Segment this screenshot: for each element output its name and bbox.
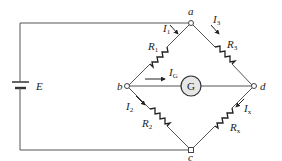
current-i1-label: I1 [162, 22, 171, 36]
current-i2-label: I2 [125, 100, 134, 114]
r1-label: R1 [147, 40, 159, 54]
wheatstone-bridge-diagram: E G a b c d R1 R3 R2 Rx [0, 0, 282, 161]
current-ig-label: IG [168, 66, 178, 80]
node-a-label: a [188, 5, 194, 17]
node-c-label: c [188, 151, 193, 161]
battery-icon [12, 80, 29, 92]
current-ix-label: Ix [243, 102, 252, 116]
source-label: E [35, 80, 43, 92]
current-i3-label: I3 [212, 13, 221, 27]
resistor-r1 [129, 25, 189, 85]
node-d-label: d [260, 80, 266, 92]
resistor-r3 [193, 25, 252, 85]
resistor-rx [193, 88, 252, 148]
resistor-r2 [129, 88, 189, 148]
node-b-label: b [117, 80, 123, 92]
rx-label: Rx [229, 121, 241, 135]
r3-label: R3 [226, 38, 238, 52]
galvanometer-label: G [187, 80, 195, 92]
node-d [252, 84, 257, 89]
r2-label: R2 [141, 117, 153, 131]
node-b [125, 84, 130, 89]
current-i2-arrow-icon [136, 96, 145, 105]
node-a [189, 21, 194, 26]
current-i1-arrow-icon [170, 25, 178, 34]
